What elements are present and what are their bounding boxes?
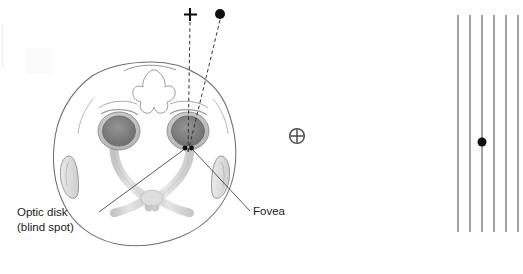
left-eye-iris bbox=[103, 116, 136, 146]
grating-dot bbox=[478, 138, 487, 147]
vertical-line-pattern bbox=[458, 15, 518, 232]
circled-plus-icon bbox=[290, 129, 305, 144]
plus-stimulus bbox=[184, 8, 197, 21]
eye-anatomy-figure: Optic disk (blind spot) Fovea bbox=[0, 0, 523, 274]
scan-artifact bbox=[1, 24, 52, 74]
optic-chiasm-body bbox=[141, 190, 163, 206]
optic-disk-label-line2: (blind spot) bbox=[17, 221, 74, 233]
fovea-label: Fovea bbox=[253, 205, 286, 217]
figure-canvas: Optic disk (blind spot) Fovea bbox=[0, 0, 523, 274]
head-outline-group bbox=[54, 62, 236, 246]
optic-disk-label-line1: Optic disk bbox=[17, 206, 68, 218]
dot-stimulus bbox=[215, 9, 225, 19]
